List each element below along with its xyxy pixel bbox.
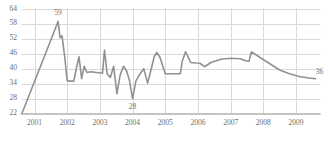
x-axis-tick-label: 2004 (118, 119, 148, 127)
y-axis-tick-label: 28 (1, 94, 17, 102)
line-chart: 6458524640342822 20012002200320042005200… (0, 0, 329, 141)
vertical-gridlines (36, 8, 297, 114)
y-axis-tick-label: 52 (1, 34, 17, 42)
x-axis-tick-label: 2009 (281, 119, 311, 127)
y-axis-tick-label: 46 (1, 49, 17, 57)
y-axis-tick-label: 64 (1, 5, 17, 13)
x-axis-tick-label: 2003 (85, 119, 115, 127)
data-point-label: 36 (310, 68, 329, 76)
y-axis-tick-label: 22 (1, 109, 17, 117)
x-axis-tick-label: 2008 (248, 119, 278, 127)
data-point-label: 59 (48, 9, 68, 17)
x-axis-tick-label: 2005 (150, 119, 180, 127)
x-axis-tick-label: 2002 (52, 119, 82, 127)
y-axis-tick-label: 58 (1, 19, 17, 27)
x-axis-tick-label: 2001 (20, 119, 50, 127)
y-axis-tick-label: 40 (1, 64, 17, 72)
y-axis-tick-label: 34 (1, 79, 17, 87)
data-point-label: 28 (123, 103, 143, 111)
horizontal-gridlines (22, 10, 321, 115)
x-axis-tick-label: 2006 (183, 119, 213, 127)
x-axis-tick-label: 2007 (216, 119, 246, 127)
